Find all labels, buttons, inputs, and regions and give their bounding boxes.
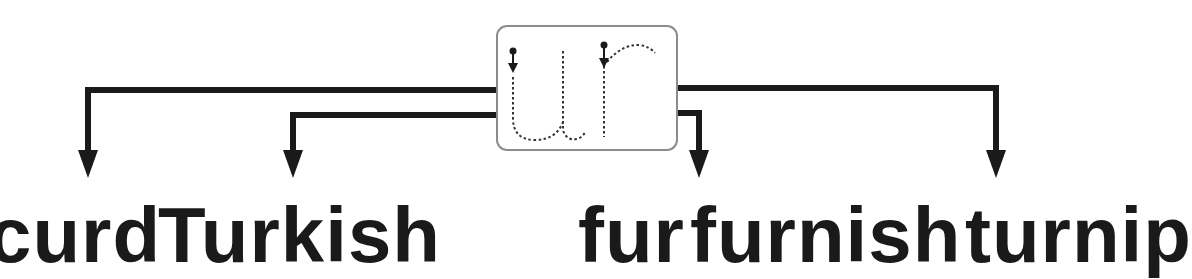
connector-line-right-inner	[677, 113, 699, 152]
example-word-5: turnip	[965, 196, 1192, 274]
down-arrow-icon	[283, 150, 303, 178]
example-word-3: fur	[578, 196, 685, 274]
letter-tracing-card	[497, 26, 677, 150]
card-frame	[497, 26, 677, 150]
connector-line-left-inner	[293, 115, 496, 152]
example-word-1: curd	[0, 196, 161, 274]
down-arrow-icon	[689, 150, 709, 178]
example-word-2: Turkish	[158, 196, 441, 274]
connector-line-right-outer	[677, 88, 996, 152]
example-word-4: furnish	[690, 196, 961, 274]
down-arrow-icon	[78, 150, 98, 178]
down-arrow-icon	[986, 150, 1006, 178]
arrow-heads	[78, 150, 1006, 178]
